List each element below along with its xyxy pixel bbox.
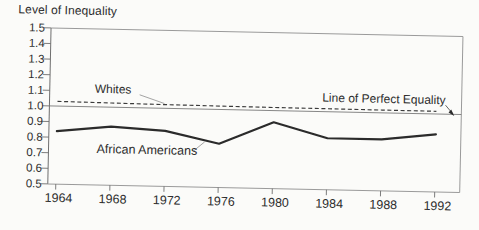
- x-tick-label: 1984: [315, 196, 343, 211]
- y-tick-label: 1.2: [28, 68, 44, 80]
- y-tick-label: 0.6: [26, 162, 42, 174]
- perfect-equality-line: [49, 106, 461, 115]
- x-tick-label: 1992: [423, 199, 451, 214]
- x-tick-label: 1988: [369, 198, 397, 213]
- y-tick-label: 0.9: [27, 115, 43, 127]
- x-tick-label: 1980: [261, 195, 289, 210]
- equality-arrowhead-icon: [448, 110, 454, 116]
- x-tick-label: 1976: [207, 194, 235, 209]
- y-tick-label: 1.4: [29, 37, 46, 49]
- chart-canvas: Level of Inequality 1.51.41.31.21.11.00.…: [0, 0, 479, 230]
- y-tick-label: 1.1: [28, 84, 44, 96]
- plot-border-top: [51, 28, 463, 37]
- line-chart: 1.51.41.31.21.11.00.90.80.70.60.51964196…: [0, 0, 479, 230]
- perfect-equality-line-label: Line of Perfect Equality: [318, 91, 445, 108]
- whites-leader-line: [139, 95, 164, 104]
- y-tick-label: 1.0: [27, 99, 43, 111]
- y-tick-label: 0.5: [26, 177, 42, 189]
- x-tick-label: 1964: [44, 191, 72, 206]
- african-americans-series-label: African Americans: [96, 142, 197, 158]
- x-tick-label: 1968: [99, 192, 127, 207]
- y-tick-label: 1.5: [29, 21, 45, 33]
- y-tick-label: 0.8: [27, 130, 43, 142]
- scanned-figure: Level of Inequality 1.51.41.31.21.11.00.…: [0, 0, 479, 230]
- whites-series-label: Whites: [95, 82, 132, 97]
- y-tick-label: 1.3: [28, 52, 44, 64]
- y-tick-label: 0.7: [26, 146, 42, 158]
- x-tick-label: 1972: [153, 193, 181, 208]
